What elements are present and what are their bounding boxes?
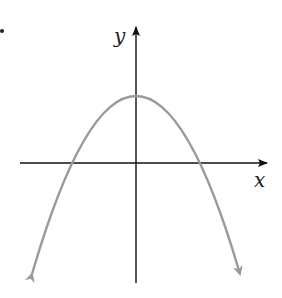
x-axis-label: x	[254, 168, 265, 192]
y-axis-label: y	[113, 24, 126, 48]
coordinate-graph: y x	[0, 0, 282, 298]
bullet-dot	[0, 29, 4, 33]
